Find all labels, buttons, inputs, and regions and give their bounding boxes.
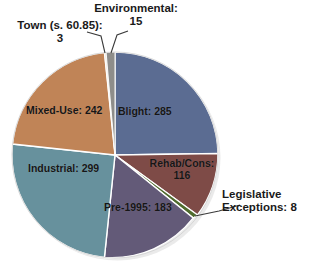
callout-environmental-line1: Environmental: <box>94 2 178 14</box>
slice-label-rehab-cons: Rehab/Cons: 116 <box>146 158 218 182</box>
pie-chart: Environmental: 15 Town (s. 60.85): 3 Leg… <box>0 0 311 266</box>
slice-label-mixed-use: Mixed-Use: 242 <box>26 105 102 117</box>
callout-legislative-line2: Exceptions: 8 <box>222 201 297 213</box>
slice-label-industrial: Industrial: 299 <box>28 163 99 175</box>
callout-town-line1: Town (s. 60.85): <box>17 19 102 31</box>
callout-label-town: Town (s. 60.85): 3 <box>4 19 116 45</box>
slice-label-blight: Blight: 285 <box>118 106 172 118</box>
callout-label-legislative-exceptions: Legislative Exceptions: 8 <box>222 188 311 214</box>
callout-environmental-line2: 15 <box>130 15 143 27</box>
pie-slice-blight[interactable] <box>115 52 218 155</box>
callout-legislative-line1: Legislative <box>222 188 281 200</box>
callout-town-line2: 3 <box>57 32 63 44</box>
slice-label-rehab-line1: Rehab/Cons: <box>150 157 215 169</box>
slice-label-pre-1995: Pre-1995: 183 <box>104 202 172 214</box>
slice-label-rehab-line2: 116 <box>174 169 191 181</box>
